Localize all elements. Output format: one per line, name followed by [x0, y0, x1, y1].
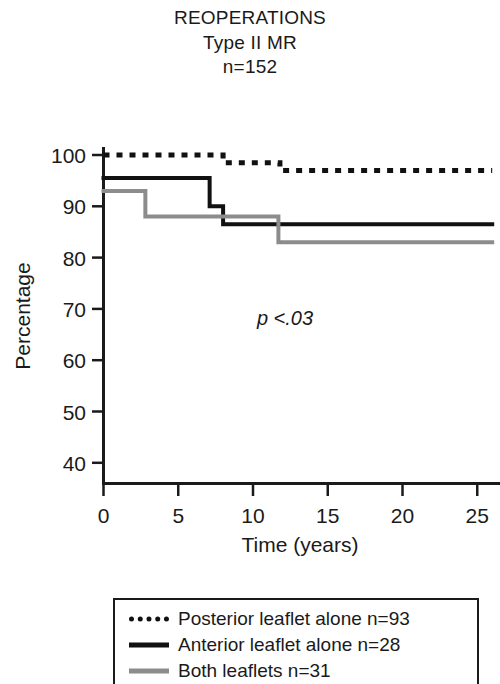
data-curves [104, 155, 493, 242]
legend-swatch-solid-icon [129, 638, 169, 652]
legend-label-anterior: Anterior leaflet alone n=28 [178, 635, 400, 654]
y-tick-label: 70 [63, 298, 86, 321]
p-value-annotation: p <.03 [256, 307, 313, 329]
x-axis-ticks: 0510152025 [98, 484, 489, 527]
y-axis-ticks: 405060708090100 [51, 144, 103, 475]
chart-legend: Posterior leaflet alone n=93 Anterior le… [113, 598, 479, 684]
x-axis-label: Time (years) [241, 533, 358, 556]
y-axis-label: Percentage [11, 262, 34, 369]
curve-both-leaflets [104, 191, 493, 242]
x-tick-label: 5 [172, 504, 184, 527]
y-tick-label: 60 [63, 349, 86, 372]
y-tick-label: 90 [63, 195, 86, 218]
y-tick-label: 40 [63, 452, 86, 475]
legend-label-posterior: Posterior leaflet alone n=93 [178, 609, 410, 628]
x-tick-label: 20 [391, 504, 414, 527]
legend-swatch-dotted-icon [129, 612, 169, 626]
legend-item-both: Both leaflets n=31 [129, 658, 477, 683]
y-tick-label: 80 [63, 247, 86, 270]
curve-posterior-leaflet-alone [104, 155, 493, 170]
x-tick-label: 15 [316, 504, 339, 527]
legend-item-posterior: Posterior leaflet alone n=93 [129, 606, 477, 631]
legend-label-both: Both leaflets n=31 [178, 661, 331, 680]
x-tick-label: 10 [241, 504, 264, 527]
y-tick-label: 50 [63, 401, 86, 424]
x-tick-label: 0 [98, 504, 110, 527]
y-tick-label: 100 [51, 144, 86, 167]
chart-svg: 405060708090100 0510152025 Percentage Ti… [0, 0, 500, 584]
x-tick-label: 25 [466, 504, 489, 527]
legend-item-anterior: Anterior leaflet alone n=28 [129, 632, 477, 657]
kaplan-meier-chart: 405060708090100 0510152025 Percentage Ti… [0, 0, 500, 584]
legend-swatch-gray-icon [129, 664, 169, 678]
